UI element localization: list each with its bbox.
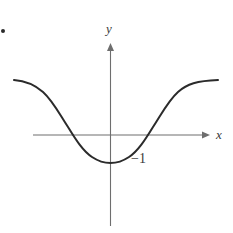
x-axis-arrowhead (202, 131, 210, 138)
y-axis-label: y (106, 22, 112, 35)
minimum-value-label: −1 (131, 152, 146, 166)
x-axis-label: x (216, 128, 222, 141)
graph-figure: y x −1 (0, 0, 233, 233)
function-curve (14, 80, 218, 163)
coordinate-plot (0, 0, 233, 233)
y-axis-arrowhead (107, 43, 114, 51)
axes-group (33, 43, 210, 226)
